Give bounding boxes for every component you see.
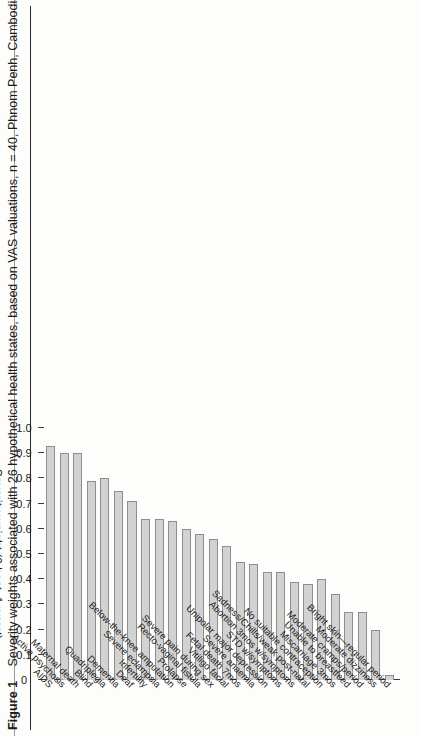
bar-row [46,428,55,680]
bar-row [317,428,326,680]
bar-row [331,428,340,680]
bar [73,453,82,680]
scanned-page: Figure 1 Severity weights associated wit… [0,0,422,736]
bar [385,675,394,680]
bar [358,612,367,680]
bar [303,584,312,680]
bar-row [114,428,123,680]
bar-row [303,428,312,680]
bar-row [263,428,272,680]
bar [276,572,285,680]
bar-row [141,428,150,680]
bar [371,630,380,680]
value-axis-title: Severity weight (0 best, 1 worst) [0,469,4,640]
bar-row [344,428,353,680]
bar-row [290,428,299,680]
bar-row [127,428,136,680]
plot-area [44,428,396,680]
bar [182,529,191,680]
bar-row [276,428,285,680]
bar [263,572,272,680]
bar [46,446,55,680]
bar [155,519,164,680]
bar-row [87,428,96,680]
bar-row [358,428,367,680]
figure-caption: Figure 1 Severity weights associated wit… [6,6,36,730]
figure-label: Figure 1 [6,681,20,730]
bar [331,594,340,680]
bar-row [155,428,164,680]
caption-divider [30,6,31,730]
bar-row [222,428,231,680]
bar-row [182,428,191,680]
bar [114,491,123,680]
bar-row [195,428,204,680]
value-axis-title-text: Severity weight (0 best, 1 worst) [0,469,4,640]
bar [290,582,299,680]
bar [344,612,353,680]
bar [317,579,326,680]
bar [87,481,96,680]
bar-row [385,428,394,680]
bar [127,501,136,680]
bar [168,521,177,680]
bar-row [100,428,109,680]
bar-series [44,428,396,680]
bar-row [371,428,380,680]
bar [209,539,218,680]
bar [100,478,109,680]
figure-frame: Figure 1 Severity weights associated wit… [0,0,422,736]
figure-caption-text: Severity weights associated with 26 hypo… [6,0,22,667]
bar-row [60,428,69,680]
bar [195,534,204,680]
bar-row [209,428,218,680]
bar [222,546,231,680]
bar-row [236,428,245,680]
bar [249,564,258,680]
bar-row [73,428,82,680]
bar [236,562,245,680]
bar-row [168,428,177,680]
bar [60,453,69,680]
bar-row [249,428,258,680]
bar [141,519,150,680]
